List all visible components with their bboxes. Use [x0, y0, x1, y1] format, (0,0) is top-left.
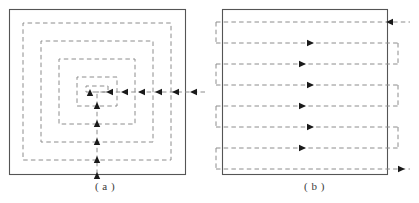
- figure-root: ( a ): [0, 0, 419, 203]
- direction-arrows-a: [87, 89, 197, 179]
- panel-a-caption: ( a ): [0, 180, 210, 192]
- raster-passes-b: [216, 22, 410, 169]
- workpiece-boundary-b: [223, 10, 388, 175]
- panel-b-caption: ( b ): [210, 180, 419, 192]
- panel-b-diagram: [210, 0, 419, 180]
- panel-a-diagram: [0, 0, 210, 180]
- direction-arrows-b: [299, 19, 405, 172]
- panel-a-contour-spiral: ( a ): [0, 0, 210, 203]
- panel-b-zigzag-raster: ( b ): [210, 0, 419, 203]
